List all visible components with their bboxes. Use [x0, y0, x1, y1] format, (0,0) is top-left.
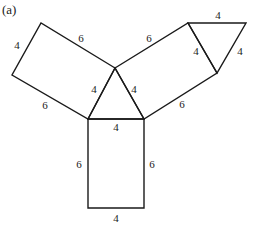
net-diagram: (a) 4 6 6 4 4 4 6 6 4 4 4 6 6 4 [0, 0, 261, 237]
label-right-top: 6 [146, 32, 152, 44]
label-tri-left: 4 [91, 83, 97, 95]
label-bottom-bottom: 4 [113, 212, 119, 224]
figure-label: (a) [2, 2, 16, 17]
label-tri-right: 4 [131, 83, 137, 95]
left-rectangle [12, 23, 115, 119]
label-small-tri-top: 4 [215, 9, 221, 21]
label-right-inner: 4 [193, 45, 199, 57]
label-tri-bottom: 4 [113, 121, 119, 133]
label-left-outer: 4 [14, 39, 20, 51]
right-rectangle [115, 23, 217, 119]
label-bottom-left: 6 [76, 158, 82, 170]
label-left-bottom: 6 [42, 99, 48, 111]
label-left-top: 6 [78, 32, 84, 44]
label-bottom-right: 6 [149, 158, 155, 170]
label-small-tri-right: 4 [237, 45, 243, 57]
label-right-bottom: 6 [179, 98, 185, 110]
